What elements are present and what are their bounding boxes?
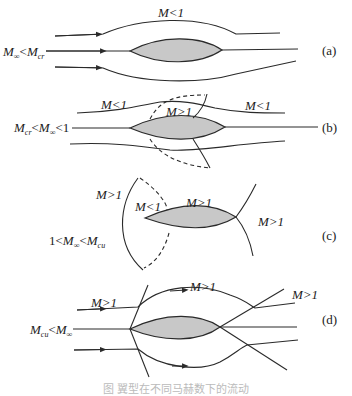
panel-b-region-label-1: M>1 [166,105,192,118]
panel-c-tag: (c) [322,229,336,242]
panel-c-region-label-1: M<1 [135,200,161,213]
panel-a-region-label-0: M<1 [158,6,184,19]
cond-m: M [3,44,14,59]
panel-d-region-label-2: M>1 [292,288,318,301]
panel-d-region-label-1: M>1 [190,280,216,293]
panel-d-tag: (d) [322,313,337,326]
panel-b-condition: Mcr<M∞<1 [14,121,69,137]
panel-c [122,178,256,270]
panel-c-condition: 1<M∞<Mcu [49,234,105,250]
airfoil-b [130,116,225,140]
panel-d-condition: Mcu<M∞ [30,323,72,339]
panel-b-region-label-2: M<1 [245,99,271,112]
panel-b-tag: (b) [322,121,337,134]
panel-c-region-label-2: M>1 [186,196,212,209]
panel-c-region-label-0: M>1 [96,188,122,201]
figure-caption: 图 翼型在不同马赫数下的流动 [0,380,352,396]
panel-a-tag: (a) [322,44,336,57]
panel-d-region-label-0: M>1 [91,296,117,309]
airfoil-a [130,39,222,62]
panel-b-region-label-0: M<1 [101,98,127,111]
airfoil-d [130,316,220,339]
panel-c-region-label-3: M>1 [258,215,284,228]
panel-a-condition: M∞<Mcr [3,45,44,61]
panel-a [46,20,298,80]
